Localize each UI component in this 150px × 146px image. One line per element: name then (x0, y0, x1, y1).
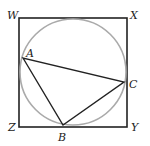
label-w: W (7, 9, 20, 22)
inscribed-figure: W X Y Z A B C (0, 0, 150, 146)
label-c: C (129, 78, 138, 91)
label-y: Y (131, 121, 140, 134)
triangle-abc (23, 58, 124, 125)
label-a: A (25, 47, 34, 60)
label-b: B (57, 131, 66, 144)
inscribed-circle (20, 19, 126, 125)
label-x: X (129, 9, 139, 22)
label-z: Z (7, 121, 16, 134)
